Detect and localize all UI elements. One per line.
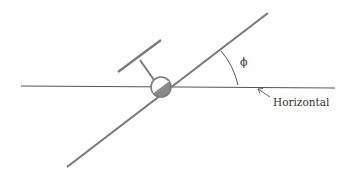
horizontal-arrow <box>258 89 270 98</box>
t-bar-stem <box>140 60 154 80</box>
diagram-canvas: ϕ Horizontal <box>0 0 351 176</box>
horizontal-line <box>21 86 335 88</box>
angle-label: ϕ <box>240 56 248 69</box>
t-bar-crossbar <box>118 40 161 72</box>
angle-arc <box>221 51 238 85</box>
horizontal-label: Horizontal <box>273 96 330 108</box>
